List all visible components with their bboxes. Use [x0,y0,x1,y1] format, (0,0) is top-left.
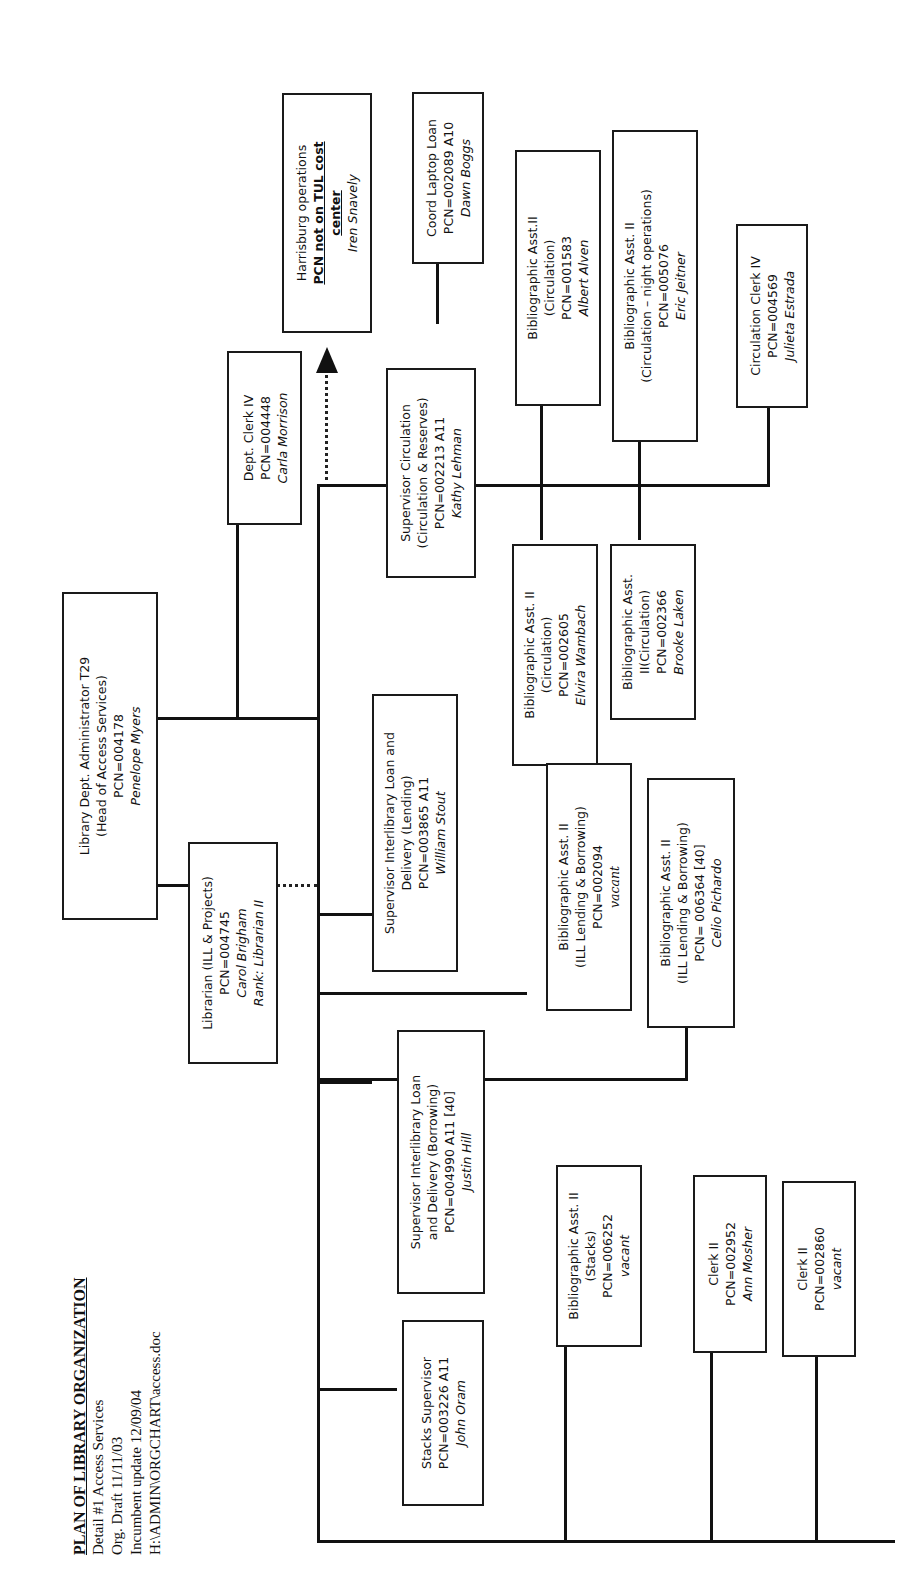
incumbent-name: Julieta Estrada [781,256,798,375]
pcn: PCN=004990 A11 [40] [441,1075,458,1249]
position-subtitle: (Head of Access Services) [93,657,110,856]
position-title: Bibliographic Asst. II [657,822,674,984]
incumbent-name: Dawn Boggs [457,119,474,237]
connector-pichardo-h [317,1078,688,1081]
incumbent-name: Justin Hill [458,1075,475,1249]
org-box-supervisor-ill-borrowing: Supervisor Interlibrary Loan and Deliver… [397,1030,485,1294]
position-title: Supervisor Interlibrary Loan [407,1075,424,1249]
incumbent-name: William Stout [432,732,449,934]
position-title: Bibliographic Asst. II [521,591,538,718]
incumbent-name: Kathy Lehman [448,397,465,548]
position-title: Supervisor Interlibrary Loan and [381,732,398,934]
pcn: PCN=005076 [655,189,672,383]
position-subtitle: (Circulation – night operations) [638,189,655,383]
dotted-librarian-link [276,884,318,887]
pcn: PCN=002952 [722,1222,739,1306]
position-subtitle: (ILL Lending & Borrowing) [572,806,589,968]
spine-main [317,484,320,1542]
incumbent-name: vacant [606,806,623,968]
header-line-path: H:\ADMIN\ORGCHART\access.doc [146,1277,165,1555]
pcn: PCN=004178 [110,657,127,856]
position-title: Circulation Clerk IV [747,256,764,375]
pcn: PCN=006252 [599,1192,616,1319]
position-title: Bibliographic Asst. [619,574,636,690]
incumbent-name: Albert Alven [575,216,592,339]
position-subtitle: (Stacks) [582,1192,599,1319]
position-subtitle: (Circulation) [541,216,558,339]
org-box-harrisburg: Harrisburg operations PCN not on TUL cos… [282,93,372,333]
dotted-arrow-line [325,370,328,480]
connector-head-librarian [157,884,189,887]
position-title: Clerk II [794,1227,811,1311]
pcn: PCN=001583 [558,216,575,339]
pcn: PCN=002860 [811,1227,828,1311]
connector-wambach [540,484,543,540]
position-title: Bibliographic Asst.II [524,216,541,339]
pcn: PCN=004569 [764,256,781,375]
org-box-bib-asst-ill-vacant: Bibliographic Asst. II (ILL Lending & Bo… [546,763,632,1011]
pcn: PCN=004745 [216,876,233,1030]
connector-circ-clerk [767,406,770,486]
cost-center-note-2: center [327,141,344,284]
incumbent-name: John Oram [452,1357,469,1469]
org-box-clerk-vacant: Clerk II PCN=002860 vacant [782,1181,856,1357]
rank: Rank: Librarian II [250,876,267,1030]
position-title: Bibliographic Asst. II [565,1192,582,1319]
circ-bar [474,484,770,487]
connector-circ-laptop [436,262,439,324]
pcn: PCN=003865 A11 [415,732,432,934]
stacks-bar [317,1540,895,1543]
connector-ba-stacks [564,1346,567,1542]
pcn: PCN=003226 A11 [435,1357,452,1469]
connector-laken [638,484,641,540]
incumbent-name: Ann Mosher [739,1222,756,1306]
position-title: Library Dept. Administrator T29 [76,657,93,856]
incumbent-name: Carol Brigham [233,876,250,1030]
incumbent-name: Carla Morrison [273,393,290,484]
org-box-coord-laptop-loan: Coord Laptop Loan PCN=002089 A10 Dawn Bo… [412,92,484,264]
connector-lending [317,913,372,916]
org-box-supervisor-circulation: Supervisor Circulation (Circulation & Re… [386,368,476,578]
connector-borrowing [317,1081,372,1084]
cost-center-note: PCN not on TUL cost [310,141,327,284]
position-title: Supervisor Circulation [397,397,414,548]
position-title: Bibliographic Asst. II [555,806,572,968]
position-title: Harrisburg operations [293,141,310,284]
document-title: PLAN OF LIBRARY ORGANIZATION [70,1277,89,1555]
pcn: PCN= 006364 [40] [691,822,708,984]
arrow-up-icon [316,347,338,373]
org-box-bib-asst-wambach: Bibliographic Asst. II (Circulation) PCN… [512,544,598,766]
connector-circ-spine [317,484,389,487]
org-box-librarian: Librarian (ILL & Projects) PCN=004745 Ca… [188,842,278,1064]
position-subtitle: and Delivery (Borrowing) [424,1075,441,1249]
connector-stacks-sup [317,1388,397,1391]
connector-pichardo-v [685,1026,688,1081]
header-line-draft: Org. Draft 11/11/03 [108,1277,127,1555]
position-subtitle: Delivery (Lending) [398,732,415,934]
connector-jeitner [638,440,641,486]
connector-clerk-vacant [815,1356,818,1542]
org-box-circulation-clerk: Circulation Clerk IV PCN=004569 Julieta … [736,224,808,408]
pcn: PCN=002213 A11 [431,397,448,548]
pcn: PCN=002366 [653,574,670,690]
incumbent-name: Eric Jeitner [672,189,689,383]
org-box-stacks-supervisor: Stacks Supervisor PCN=003226 A11 John Or… [402,1320,484,1506]
incumbent-name: vacant [828,1227,845,1311]
org-box-bib-asst-jeitner: Bibliographic Asst. II (Circulation – ni… [612,130,698,442]
position-title: Clerk II [705,1222,722,1306]
connector-dept-clerk [236,523,239,719]
org-box-clerk-mosher: Clerk II PCN=002952 Ann Mosher [693,1175,767,1353]
org-box-supervisor-ill-lending: Supervisor Interlibrary Loan and Deliver… [372,694,458,972]
position-title: Stacks Supervisor [418,1357,435,1469]
org-box-bib-asst-pichardo: Bibliographic Asst. II (ILL Lending & Bo… [647,778,735,1028]
document-header: PLAN OF LIBRARY ORGANIZATION Detail #1 A… [70,1277,165,1555]
header-line-update: Incumbent update 12/09/04 [127,1277,146,1555]
incumbent-name: Brooke Laken [670,574,687,690]
pcn: PCN=002605 [555,591,572,718]
connector-mosher [710,1352,713,1542]
position-subtitle: (Circulation & Reserves) [414,397,431,548]
incumbent-name: Celio Pichardo [708,822,725,984]
connector-lending-bar [317,992,527,995]
org-box-dept-clerk: Dept. Clerk IV PCN=004448 Carla Morrison [227,351,302,525]
org-box-bib-asst-laken: Bibliographic Asst. II(Circulation) PCN=… [610,544,696,720]
